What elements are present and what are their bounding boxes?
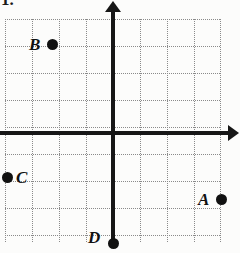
y-axis <box>111 10 115 244</box>
point-d-label: D <box>88 229 100 246</box>
problem-number: 1. <box>1 0 14 8</box>
point-b-marker <box>47 39 58 50</box>
y-axis-arrow-icon <box>105 1 121 12</box>
x-axis-arrow-icon <box>228 125 239 141</box>
point-a-label: A <box>198 191 209 208</box>
point-c-marker <box>2 172 13 183</box>
point-a-marker <box>216 194 227 205</box>
coordinate-grid-figure: 1. A B C D <box>0 0 240 253</box>
point-b-label: B <box>29 36 40 53</box>
point-c-label: C <box>16 169 27 186</box>
x-axis <box>0 131 230 135</box>
point-d-marker <box>108 238 119 249</box>
